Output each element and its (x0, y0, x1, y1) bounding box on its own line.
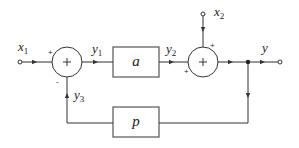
s2-plus-sign-left: + (184, 68, 189, 76)
y1-label: y1 (92, 42, 102, 58)
s1-minus-sign: - (56, 78, 59, 86)
y-terminal (278, 60, 282, 64)
block-diagram: x1 y1 y2 x2 y y3 + - + + a p (0, 0, 299, 148)
s2-plus-sign-top: + (210, 42, 215, 50)
x1-label: x1 (18, 40, 28, 56)
block-p-label: p (113, 114, 159, 129)
s1-plus-sign: + (48, 49, 53, 57)
junction-dot (246, 60, 250, 64)
x2-label: x2 (214, 5, 224, 21)
block-a-label: a (113, 54, 159, 69)
x1-terminal (18, 60, 22, 64)
y3-label: y3 (74, 88, 84, 104)
y-label: y (262, 41, 268, 54)
y2-label: y2 (166, 42, 176, 58)
x2-terminal (201, 12, 205, 16)
